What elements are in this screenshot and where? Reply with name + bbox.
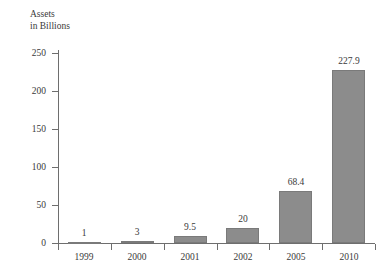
- bar-value-label: 3: [135, 227, 140, 237]
- x-axis-tick-mark: [58, 244, 59, 250]
- y-axis-tick-mark: [52, 53, 58, 54]
- y-axis-tick-label: 0: [2, 238, 46, 248]
- y-axis-title: Assets in Billions: [30, 8, 70, 32]
- x-axis-tick-mark: [322, 244, 323, 250]
- x-axis-category-label: 2010: [340, 252, 359, 262]
- x-axis-tick-mark: [217, 244, 218, 250]
- bar: [174, 236, 207, 243]
- bar: [226, 228, 259, 243]
- x-axis-category-label: 1999: [75, 252, 94, 262]
- y-axis-tick-label: 150: [2, 124, 46, 134]
- bar-value-label: 227.9: [338, 56, 359, 66]
- x-axis-tick-mark: [375, 244, 376, 250]
- y-axis-tick-label: 100: [2, 162, 46, 172]
- bar: [68, 242, 101, 244]
- bar-value-label: 68.4: [288, 177, 305, 187]
- bar-value-label: 20: [238, 214, 248, 224]
- y-axis-tick-label: 50: [2, 200, 46, 210]
- y-axis-title-line-2: in Billions: [30, 20, 70, 32]
- bar: [332, 70, 365, 243]
- x-axis-tick-mark: [111, 244, 112, 250]
- x-axis-category-label: 2001: [181, 252, 200, 262]
- y-axis-tick-mark: [52, 129, 58, 130]
- x-axis-category-label: 2005: [287, 252, 306, 262]
- y-axis-tick-mark: [52, 91, 58, 92]
- bar-value-label: 9.5: [184, 222, 196, 232]
- x-axis-tick-mark: [164, 244, 165, 250]
- x-axis-category-label: 2002: [234, 252, 253, 262]
- x-axis-tick-mark: [269, 244, 270, 250]
- bar: [279, 191, 312, 243]
- y-axis-tick-mark: [52, 167, 58, 168]
- y-axis-title-line-1: Assets: [30, 8, 70, 20]
- bar-value-label: 1: [82, 228, 87, 238]
- bar: [121, 241, 154, 243]
- y-axis-tick-label: 250: [2, 48, 46, 58]
- y-axis-tick-mark: [52, 205, 58, 206]
- x-axis-category-label: 2000: [128, 252, 147, 262]
- y-axis-line: [58, 50, 59, 244]
- bar-chart: Assets in Billions 250200150100500 11999…: [0, 0, 382, 275]
- y-axis-tick-label: 200: [2, 86, 46, 96]
